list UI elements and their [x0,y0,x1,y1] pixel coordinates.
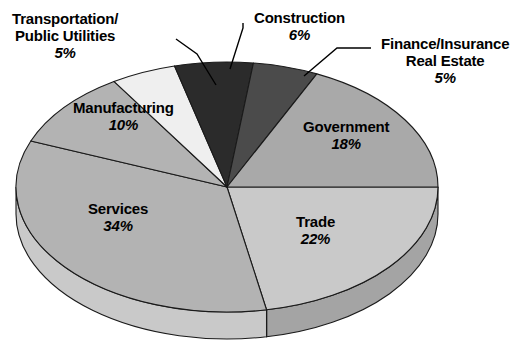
slice-label-transportation-line2: Public Utilities [15,27,115,44]
slice-value-services: 34% [88,217,148,234]
slice-label-transportation-line1: Transportation/ [12,10,118,27]
slice-label-trade-line1: Trade [296,213,335,230]
slice-label-manufacturing-line1: Manufacturing [73,99,174,116]
slice-value-manufacturing: 10% [73,116,174,133]
pie-chart: Transportation/ Public Utilities 5% Cons… [0,0,527,361]
slice-label-government-line1: Government [303,118,389,135]
slice-label-construction-line1: Construction [254,9,345,26]
slice-label-services: Services 34% [88,200,148,234]
slice-label-services-line1: Services [88,200,148,217]
slice-value-trade: 22% [296,230,335,247]
slice-label-government: Government 18% [303,118,389,152]
slice-label-construction: Construction 6% [254,9,345,43]
slice-label-finance-line1: Finance/Insurance [381,35,509,52]
slice-value-transportation: 5% [12,44,118,61]
slice-value-construction: 6% [254,26,345,43]
slice-label-finance-line2: Real Estate [406,52,485,69]
slice-label-finance: Finance/Insurance Real Estate 5% [381,35,509,86]
slice-label-transportation: Transportation/ Public Utilities 5% [12,10,118,61]
slice-label-manufacturing: Manufacturing 10% [73,99,174,133]
slice-value-government: 18% [303,135,389,152]
slice-value-finance: 5% [381,69,509,86]
leader-line-finance [304,48,371,76]
slice-label-trade: Trade 22% [296,213,335,247]
